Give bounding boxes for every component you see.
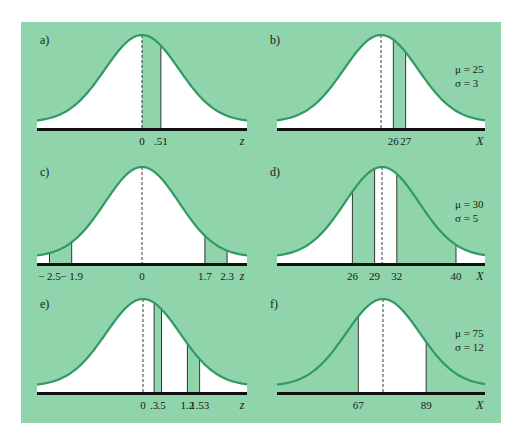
panel-b: b)2627Xμ = 25σ = 3 — [270, 33, 485, 148]
panel-label: c) — [40, 165, 49, 179]
panel-label: d) — [270, 165, 280, 179]
tick-label: 2.3 — [220, 270, 234, 282]
tick-label: 29 — [369, 270, 381, 282]
mean-param-label: μ = 30 — [455, 198, 484, 210]
tick-label: 26 — [347, 270, 359, 282]
sd-param-label: σ = 12 — [455, 341, 484, 353]
shaded-region — [352, 169, 374, 263]
tick-label: − 2.5 — [38, 270, 61, 282]
panel-label: a) — [40, 33, 49, 47]
panel-c: c)− 2.5− 1.901.72.3z — [37, 165, 247, 283]
shaded-region — [142, 35, 161, 128]
tick-label: 89 — [421, 399, 433, 411]
axis-variable-label: z — [239, 134, 245, 148]
panel-f: f)6789Xμ = 75σ = 12 — [270, 297, 485, 412]
tick-label: 0 — [140, 399, 146, 411]
panel-d: d)26293240Xμ = 30σ = 5 — [270, 165, 485, 283]
tick-label: .5 — [157, 399, 166, 411]
tick-label: 0 — [139, 135, 145, 147]
shaded-region — [154, 303, 161, 392]
panel-a: a)0.51z — [37, 33, 247, 148]
mean-param-label: μ = 25 — [455, 63, 484, 75]
panel-label: b) — [270, 33, 280, 47]
normal-curves-figure: a)0.51z b)2627Xμ = 25σ = 3 c)− 2.5− 1.90… — [0, 0, 522, 441]
tick-label: 1.7 — [198, 270, 212, 282]
sd-param-label: σ = 5 — [455, 212, 479, 224]
tick-label: − 1.9 — [60, 270, 83, 282]
tick-label: 26 — [388, 135, 400, 147]
axis-variable-label: z — [239, 398, 245, 412]
tick-label: 1.53 — [190, 399, 210, 411]
shaded-region — [397, 174, 456, 263]
curve-area — [37, 299, 247, 392]
axis-variable-label: X — [475, 398, 484, 412]
axis-variable-label: X — [475, 269, 484, 283]
tick-label: .51 — [154, 135, 168, 147]
axis-variable-label: X — [475, 134, 484, 148]
mean-param-label: μ = 75 — [455, 327, 484, 339]
sd-param-label: σ = 3 — [455, 77, 479, 89]
shaded-region — [277, 316, 358, 392]
axis-variable-label: z — [239, 269, 245, 283]
tick-label: 67 — [353, 399, 365, 411]
shaded-region — [393, 40, 405, 128]
tick-label: 27 — [400, 135, 412, 147]
tick-label: 32 — [391, 270, 402, 282]
panel-label: f) — [270, 297, 278, 311]
panel-label: e) — [40, 297, 49, 311]
tick-label: 0 — [139, 270, 145, 282]
tick-label: 40 — [451, 270, 463, 282]
panel-e: e)0.3.51.21.53z — [37, 297, 247, 412]
